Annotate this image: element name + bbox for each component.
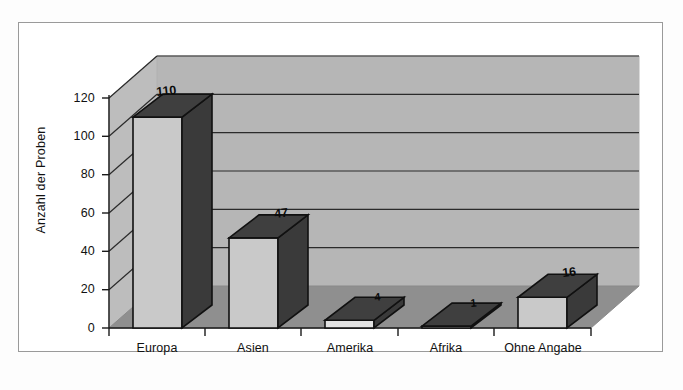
category-label-amerika: Amerika <box>310 341 390 355</box>
chart-figure: 0 20 40 60 80 100 120 Anzahl der Proben … <box>0 0 683 390</box>
ytick-label-20: 20 <box>55 282 95 296</box>
ytick-label-100: 100 <box>55 129 95 143</box>
bar-value-label-ohne-angabe: 16 <box>562 265 577 280</box>
ytick-label-40: 40 <box>55 244 95 258</box>
category-label-afrika: Afrika <box>406 341 486 355</box>
ytick-label-0: 0 <box>55 321 95 335</box>
ytick-label-60: 60 <box>55 206 95 220</box>
category-label-europa: Europa <box>117 341 197 355</box>
bar-asien[interactable] <box>229 215 308 328</box>
ytick-label-120: 120 <box>55 91 95 105</box>
chart-3d-scene <box>19 23 664 353</box>
bar-value-label-amerika: 4 <box>374 290 381 303</box>
y-axis-title: Anzahl der Proben <box>34 100 48 260</box>
plot-area <box>19 23 664 353</box>
bar-value-label-asien: 47 <box>274 206 289 221</box>
bar-europa[interactable] <box>133 94 212 328</box>
chart-frame: 0 20 40 60 80 100 120 Anzahl der Proben … <box>18 22 663 352</box>
y-axis <box>102 95 109 328</box>
bar-value-label-afrika: 1 <box>470 296 477 309</box>
bar-value-label-europa: 110 <box>156 83 178 99</box>
category-label-ohne-angabe: Ohne Angabe <box>489 341 597 355</box>
category-label-asien: Asien <box>213 341 293 355</box>
ytick-label-80: 80 <box>55 167 95 181</box>
